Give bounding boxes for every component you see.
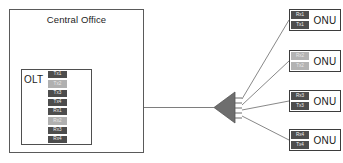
- splitter-triangle: [214, 92, 235, 123]
- onu-3-label: ONU: [310, 91, 340, 111]
- onu-2-tx: Tx2: [290, 61, 310, 71]
- onu-4-ports: Rx4 Tx4: [290, 130, 310, 150]
- onu-4-tx: Tx4: [290, 140, 310, 150]
- onu-2-label: ONU: [310, 51, 340, 71]
- olt-port-tx2: Tx2: [47, 79, 68, 88]
- olt-port-tx3: Tx3: [47, 89, 68, 98]
- onu-2-rx: Rx2: [290, 51, 310, 61]
- onu-1-ports: Rx1 Tx1: [290, 10, 310, 30]
- onu-4: Rx4 Tx4 ONU: [289, 129, 341, 151]
- distribution-fibers: [242, 20, 289, 140]
- fiber-to-onu-3: [242, 101, 289, 110]
- olt-label: OLT: [24, 74, 43, 85]
- olt-port-rx1: Rx1: [47, 107, 68, 116]
- onu-3-ports: Rx3 Tx3: [290, 91, 310, 111]
- olt-port-rx4: Rx4: [47, 135, 68, 144]
- onu-3-rx: Rx3: [290, 91, 310, 101]
- diagram-canvas: Central Office OLT Tx1 Tx2 Tx3 Tx4 Rx1 R…: [0, 0, 343, 163]
- onu-4-rx: Rx4: [290, 130, 310, 140]
- onu-4-label: ONU: [310, 130, 340, 150]
- onu-1-label: ONU: [310, 10, 340, 30]
- olt-port-tx4: Tx4: [47, 98, 68, 107]
- onu-3: Rx3 Tx3 ONU: [289, 90, 341, 112]
- olt-port-rx2: Rx2: [47, 116, 68, 125]
- onu-3-tx: Tx3: [290, 101, 310, 111]
- onu-1-tx: Tx1: [290, 20, 310, 30]
- olt-port-rx3: Rx3: [47, 126, 68, 135]
- olt-port-tx1: Tx1: [47, 70, 68, 79]
- onu-2: Rx2 Tx2 ONU: [289, 50, 341, 72]
- splitter-stubs: [235, 98, 242, 118]
- fiber-to-onu-1: [242, 20, 289, 99]
- fiber-to-onu-2: [242, 61, 289, 105]
- olt-port-stack: Tx1 Tx2 Tx3 Tx4 Rx1 Rx2 Rx3 Rx4: [47, 70, 68, 144]
- fiber-to-onu-4: [242, 116, 289, 140]
- onu-2-ports: Rx2 Tx2: [290, 51, 310, 71]
- onu-1: Rx1 Tx1 ONU: [289, 9, 341, 31]
- onu-1-rx: Rx1: [290, 10, 310, 20]
- central-office-label: Central Office: [9, 14, 144, 25]
